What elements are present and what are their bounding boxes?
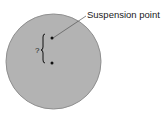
disk (6, 14, 101, 109)
center-of-mass-dot (51, 62, 54, 65)
suspension-point-label: Suspension point (87, 9, 160, 20)
distance-unknown-label: ? (35, 46, 39, 55)
suspension-point-dot (51, 37, 54, 40)
